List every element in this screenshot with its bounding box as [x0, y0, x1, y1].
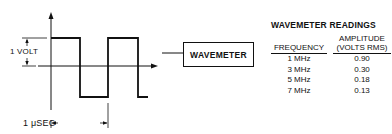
- cell-amplitude: 0.13: [333, 86, 391, 97]
- wavemeter-block-label: WAVEMETER: [190, 50, 247, 60]
- y-axis-arrow-icon: [49, 12, 54, 110]
- table-row: 1 MHz 0.90: [271, 54, 391, 65]
- wavemeter-block: WAVEMETER: [183, 42, 254, 67]
- table-row: 5 MHz 0.18: [271, 75, 391, 86]
- cell-frequency: 1 MHz: [271, 54, 327, 65]
- x-axis-arrow-icon: [38, 64, 158, 69]
- cell-amplitude: 0.90: [333, 54, 391, 65]
- header-amplitude-line1: AMPLITUDE: [339, 34, 385, 43]
- period-dimension-arrows: [51, 103, 108, 128]
- wavemeter-readings-panel: WAVEMETER READINGS FREQUENCY AMPLITUDE (…: [271, 20, 392, 96]
- period-label: 1 μSEC: [23, 118, 55, 128]
- cell-frequency: 5 MHz: [271, 75, 327, 86]
- cell-amplitude: 0.18: [333, 75, 391, 86]
- readings-title: WAVEMETER READINGS: [271, 20, 392, 30]
- cell-frequency: 3 MHz: [271, 65, 327, 76]
- table-row: 3 MHz 0.30: [271, 65, 391, 76]
- cell-amplitude: 0.30: [333, 65, 391, 76]
- table-row: 7 MHz 0.13: [271, 86, 391, 97]
- voltage-label: 1 VOLT: [10, 47, 38, 56]
- cell-frequency: 7 MHz: [271, 86, 327, 97]
- square-wave: [51, 38, 148, 97]
- table-header-row: FREQUENCY AMPLITUDE (VOLTS RMS): [271, 34, 391, 54]
- header-frequency: FREQUENCY: [271, 34, 327, 54]
- header-amplitude: AMPLITUDE (VOLTS RMS): [333, 34, 391, 54]
- readings-table: FREQUENCY AMPLITUDE (VOLTS RMS) 1 MHz 0.…: [271, 34, 391, 96]
- header-amplitude-line2: (VOLTS RMS): [337, 43, 388, 52]
